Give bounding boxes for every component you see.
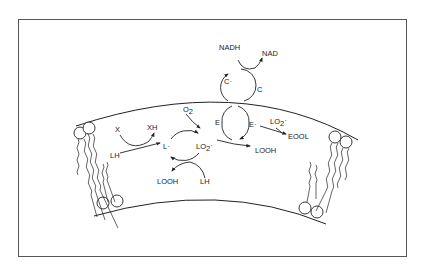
label-lo2-radical: LO2· [196, 141, 213, 153]
label-c: C [257, 85, 263, 94]
label-eool: EOOL [288, 132, 309, 141]
label-e: E [215, 118, 220, 127]
label-lh-bottom: LH [200, 177, 210, 186]
initiation-reaction: X XH LH [110, 123, 160, 160]
propagation-cycle: L· O2 LO2· LOOH LH [157, 105, 213, 186]
phospholipid-right [299, 131, 352, 218]
label-looh-bottom: LOOH [157, 177, 178, 186]
label-lh-init: LH [110, 151, 120, 160]
label-x: X [115, 125, 120, 134]
vitamin-c-cycle: NADH NAD C· C [219, 43, 278, 101]
membrane-inner-curve [94, 200, 326, 224]
label-l-radical: L· [163, 142, 170, 151]
label-lo2-right: LO2· [270, 116, 287, 128]
lipid-peroxidation-diagram: X XH LH L· O2 LO2· LOOH LH E E· LO2· EOO… [0, 0, 424, 271]
label-c-radical: C· [224, 77, 232, 86]
label-nadh: NADH [219, 43, 240, 52]
label-o2: O2 [183, 105, 193, 116]
label-xh: XH [147, 123, 157, 132]
phospholipid-left [74, 122, 123, 228]
label-e-radical: E· [249, 120, 257, 129]
label-looh-right: LOOH [255, 146, 276, 155]
label-nad: NAD [262, 49, 278, 58]
